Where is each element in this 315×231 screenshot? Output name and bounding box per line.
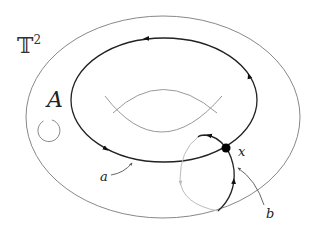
loop-b-back (180, 137, 218, 211)
torus-hole-upper-arc (113, 90, 217, 114)
loop-a-pointer (111, 163, 132, 175)
loop-a-label: a (100, 169, 108, 184)
loop-a (71, 38, 257, 162)
torus-diagram: 𝕋2 A a b x (0, 0, 315, 231)
torus-label: 𝕋2 (17, 33, 41, 58)
loop-b-label: b (266, 206, 274, 221)
base-point-x (222, 144, 231, 153)
torus-label-superscript: 2 (33, 33, 41, 47)
region-a-label: A (45, 87, 63, 112)
torus-outer-boundary (26, 16, 300, 218)
point-x-label: x (238, 144, 246, 159)
torus-hole-lower-arc (105, 96, 222, 132)
region-a-circle (38, 120, 60, 142)
